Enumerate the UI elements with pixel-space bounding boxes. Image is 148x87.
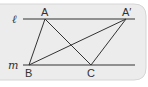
line-m-label: m [8, 59, 18, 72]
diagram-canvas: ℓ m A A′ B C [0, 0, 148, 87]
line-l-label: ℓ [12, 13, 17, 26]
point-a-prime-label: A′ [122, 6, 131, 18]
point-c-label: C [87, 67, 95, 79]
point-b-label: B [25, 67, 32, 79]
parallel-lines-triangle-diagram: ℓ m A A′ B C [0, 0, 148, 87]
point-a-label: A [41, 6, 49, 18]
